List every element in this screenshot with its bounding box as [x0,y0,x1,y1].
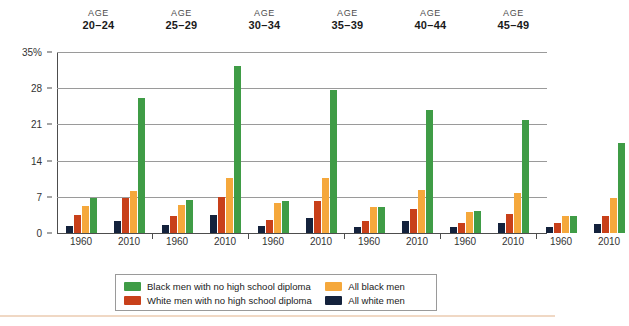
legend-label: Black men with no high school diploma [147,281,311,292]
x-tick-label-1960: 1960 [249,236,297,252]
bar [322,178,329,233]
gridline-0 [57,233,547,234]
bar [362,221,369,233]
bar [546,227,553,233]
bar-cluster-1960 [159,52,195,233]
bar [562,216,569,233]
x-tick-label-1960: 1960 [537,236,585,252]
bar [130,191,137,233]
legend-label: White men with no high school diploma [147,295,312,306]
bar [90,198,97,233]
bar [162,225,169,233]
age-group-header-6: AGE45–49 [472,8,555,42]
age-word-label: AGE [57,8,140,18]
age-range-label: 25–29 [140,19,223,32]
bar [258,226,265,233]
age-word-label: AGE [223,8,306,18]
bar-cluster-1960 [63,52,99,233]
bar [82,206,89,233]
y-tick-label-0: 0 [36,228,42,239]
bar [466,212,473,233]
age-range-label: 20–24 [57,19,140,32]
bar-group-3 [249,52,345,233]
x-tick-label-2010: 2010 [297,236,345,252]
x-tick-label-1960: 1960 [153,236,201,252]
bar [450,227,457,233]
bar-cluster-1960 [255,52,291,233]
bar-cluster-1960 [447,52,483,233]
bar [210,215,217,233]
x-axis-labels: 1960201019602010196020101960201019602010… [57,236,547,252]
legend-swatch-white-no-diploma [124,296,141,305]
age-group-header-2: AGE25–29 [140,8,223,42]
y-tick-mark-21 [47,124,52,125]
age-word-label: AGE [389,8,472,18]
x-tick-label-2010: 2010 [585,236,629,252]
bar-group-2 [153,52,249,233]
y-axis-labels: 0714212835% [0,52,52,233]
y-tick-mark-7 [47,196,52,197]
age-group-header-5: AGE40–44 [389,8,472,42]
bar [458,223,465,233]
bar-cluster-1960 [351,52,387,233]
y-tick-label-35: 35% [22,47,42,58]
y-tick-label-28: 28 [31,83,42,94]
legend-item-4: All white men [325,295,428,306]
x-label-group-5: 19602010 [441,236,537,252]
bar-group-4 [345,52,441,233]
age-range-label: 45–49 [472,19,555,32]
bar [474,211,481,233]
bar [426,110,433,233]
bar [266,220,273,233]
x-tick-label-2010: 2010 [105,236,153,252]
bar [306,218,313,233]
bar [178,205,185,233]
legend-swatch-all-white [325,296,342,305]
bar-cluster-2010 [591,52,627,233]
bar [218,197,225,233]
legend-item-3: White men with no high school diploma [124,295,321,306]
bar-cluster-2010 [303,52,339,233]
bar-groups [57,52,547,233]
bar [226,178,233,233]
bar [66,226,73,233]
bar [378,207,385,233]
x-tick-label-2010: 2010 [489,236,537,252]
x-tick-label-1960: 1960 [345,236,393,252]
y-tick-mark-28 [47,88,52,89]
bar-cluster-2010 [399,52,435,233]
x-label-group-3: 19602010 [249,236,345,252]
age-word-label: AGE [472,8,555,18]
bar-group-6 [537,52,629,233]
bottom-divider [0,315,555,317]
legend-item-2: All black men [325,281,428,292]
bar [602,216,609,233]
bar-cluster-1960 [543,52,579,233]
y-tick-mark-0 [47,233,52,234]
bar-cluster-2010 [495,52,531,233]
bar [122,198,129,233]
bar [554,223,561,233]
age-range-label: 40–44 [389,19,472,32]
x-label-group-2: 19602010 [153,236,249,252]
bar [114,221,121,233]
x-label-group-1: 19602010 [57,236,153,252]
bar [234,66,241,233]
bar [410,209,417,233]
bar [506,214,513,233]
age-group-header-1: AGE20–24 [57,8,140,42]
chart-legend: Black men with no high school diplomaAll… [115,274,437,311]
age-group-headers: AGE20–24AGE25–29AGE30–34AGE35–39AGE40–44… [57,8,555,42]
bar [514,193,521,233]
bar [594,224,601,233]
bar [274,203,281,233]
bar-group-1 [57,52,153,233]
bar [570,216,577,233]
bar [186,200,193,233]
x-tick-label-2010: 2010 [393,236,441,252]
y-tick-label-14: 14 [31,155,42,166]
bar [498,223,505,233]
bar-group-5 [441,52,537,233]
legend-swatch-all-black [325,282,342,291]
